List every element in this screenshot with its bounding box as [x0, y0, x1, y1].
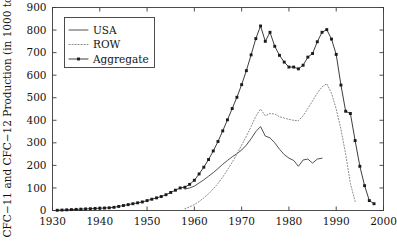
x-tick-label: 1960: [181, 215, 208, 227]
data-point: [84, 207, 87, 210]
data-point: [79, 208, 82, 211]
data-point: [325, 28, 328, 31]
legend-label-usa: USA: [93, 24, 117, 36]
y-tick-label: 100: [26, 182, 46, 194]
data-point: [150, 198, 153, 201]
x-tick-label: 2000: [370, 215, 397, 227]
data-point: [89, 207, 92, 210]
x-tick-label: 1930: [39, 215, 66, 227]
data-point: [98, 207, 101, 210]
y-tick-label: 500: [26, 91, 46, 103]
data-point: [169, 191, 172, 194]
data-point: [65, 208, 68, 211]
data-point: [292, 66, 295, 69]
y-tick-label: 400: [26, 114, 46, 126]
data-point: [207, 158, 210, 161]
data-point: [70, 208, 73, 211]
data-point: [368, 199, 371, 202]
chart-background: [0, 0, 397, 244]
y-tick-label: 300: [26, 136, 46, 148]
data-point: [61, 209, 64, 212]
data-point: [146, 199, 149, 202]
data-point: [183, 186, 186, 189]
data-point: [221, 129, 224, 132]
data-point: [349, 112, 352, 115]
data-point: [254, 37, 257, 40]
data-point: [339, 84, 342, 87]
data-point: [108, 206, 111, 209]
data-point: [273, 45, 276, 48]
data-point: [56, 209, 59, 212]
data-point: [202, 166, 205, 169]
x-tick-label: 1970: [228, 215, 255, 227]
data-point: [354, 139, 357, 142]
data-point: [160, 195, 163, 198]
data-point: [75, 208, 78, 211]
data-point: [287, 66, 290, 69]
data-point: [259, 25, 262, 28]
data-point: [193, 179, 196, 182]
data-point: [302, 64, 305, 67]
data-point: [94, 207, 97, 210]
x-tick-label: 1990: [323, 215, 350, 227]
y-tick-label: 0: [40, 204, 47, 216]
data-point: [179, 186, 182, 189]
data-point: [264, 40, 267, 43]
data-point: [113, 206, 116, 209]
chart-legend: USAROWAggregate: [65, 18, 155, 68]
y-tick-label: 700: [26, 46, 46, 58]
data-point: [136, 201, 139, 204]
y-tick-label: 800: [26, 24, 46, 36]
data-point: [250, 53, 253, 56]
data-point: [127, 203, 130, 206]
data-point: [316, 40, 319, 43]
data-point: [311, 52, 314, 55]
data-point: [131, 202, 134, 205]
x-tick-label: 1950: [134, 215, 161, 227]
data-point: [321, 31, 324, 34]
legend-label-row: ROW: [93, 38, 121, 50]
data-point: [235, 96, 238, 99]
data-point: [363, 184, 366, 187]
data-point: [278, 54, 281, 57]
data-point: [358, 165, 361, 168]
y-axis-title: CFC−11 and CFC−12 Production (in 1000 to…: [1, 0, 13, 237]
data-point: [226, 118, 229, 121]
y-tick-label: 900: [26, 1, 46, 13]
data-point: [297, 67, 300, 70]
data-point: [269, 31, 272, 34]
data-point: [165, 193, 168, 196]
data-point: [344, 110, 347, 113]
data-point: [188, 183, 191, 186]
data-point: [117, 205, 120, 208]
x-tick-label: 1980: [276, 215, 303, 227]
data-point: [283, 61, 286, 64]
data-point: [231, 107, 234, 110]
data-point: [198, 173, 201, 176]
chart-figure: 19301940195019601970198019902000 0100200…: [0, 0, 397, 244]
data-point: [240, 83, 243, 86]
x-tick-label: 1940: [86, 215, 113, 227]
data-point: [245, 69, 248, 72]
legend-marker-aggregate: [77, 58, 80, 61]
data-point: [330, 38, 333, 41]
data-point: [155, 196, 158, 199]
data-point: [122, 204, 125, 207]
data-point: [174, 189, 177, 192]
y-tick-label: 200: [26, 159, 46, 171]
data-point: [335, 53, 338, 56]
y-tick-label: 600: [26, 69, 46, 81]
data-point: [212, 150, 215, 153]
cfc-production-line-chart: 19301940195019601970198019902000 0100200…: [0, 0, 397, 244]
data-point: [103, 207, 106, 210]
data-point: [217, 140, 220, 143]
data-point: [306, 56, 309, 59]
data-point: [373, 202, 376, 205]
data-point: [141, 200, 144, 203]
legend-label-aggregate: Aggregate: [92, 53, 149, 65]
